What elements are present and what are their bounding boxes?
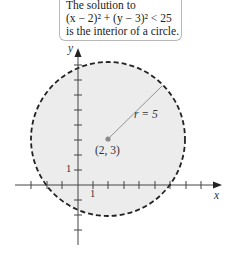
radius-label: r = 5: [134, 108, 158, 120]
caption-line-2: (x − 2)² + (y − 3)² < 25: [66, 12, 181, 25]
y-unit-label: 1: [66, 163, 71, 174]
caption-box: The solution to (x − 2)² + (y − 3)² < 25…: [59, 0, 182, 41]
caption-line-1: The solution to: [66, 0, 181, 12]
x-axis-label: x: [214, 189, 219, 201]
x-axis-arrow-icon: [213, 182, 222, 189]
y-axis-arrow-icon: [75, 48, 82, 57]
x-unit-label: 1: [90, 188, 95, 199]
y-axis-label: y: [68, 42, 73, 54]
center-point: [105, 136, 110, 141]
center-label: (2, 3): [95, 144, 120, 156]
caption-line-3: is the interior of a circle.: [66, 25, 181, 38]
